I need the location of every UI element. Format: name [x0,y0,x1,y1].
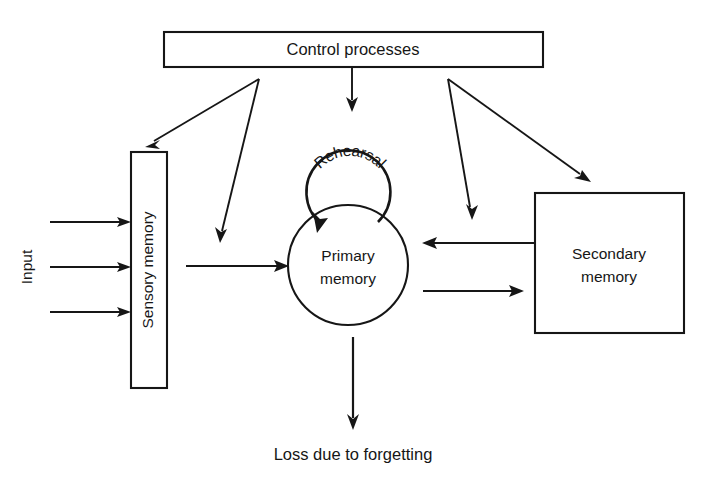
arrowhead [145,140,160,149]
loss-label: Loss due to forgetting [274,445,433,463]
input-arrow-1 [50,217,131,227]
primary-memory-circle [288,205,408,325]
edge-control-to-primary-secondary-link [448,79,478,220]
edge-secondary-to-primary [422,237,534,249]
rehearsal-label: Rehearsal [311,142,390,172]
diagram-canvas: Control processes Sensory memory Input [0,0,706,485]
input-arrow-2 [50,262,131,272]
edge-control-to-secondary [448,79,591,182]
secondary-memory-box [535,193,684,333]
edge-primary-to-loss [347,337,359,430]
secondary-memory-label-line2: memory [581,268,637,285]
rehearsal-loop: Rehearsal [306,142,390,233]
edge-primary-to-secondary [423,285,524,297]
arrowhead [215,227,227,243]
sensory-memory-label: Sensory memory [139,211,156,328]
node-sensory-memory: Sensory memory [131,152,167,388]
edge-sensory-to-primary [186,260,289,272]
primary-memory-label-line2: memory [320,270,376,287]
edge-control-to-sensory [145,79,259,149]
edge-control-to-sensory-output [215,79,259,243]
edge-control-to-rehearsal [346,68,358,112]
input-arrow-3 [50,307,131,317]
node-control-processes: Control processes [164,32,543,67]
arrowhead [466,204,478,220]
primary-memory-label-line1: Primary [321,247,375,264]
node-primary-memory: Primary memory [288,205,408,325]
node-secondary-memory: Secondary memory [535,193,684,333]
secondary-memory-label-line1: Secondary [572,245,646,262]
control-processes-label: Control processes [287,40,420,58]
memory-model-diagram: Control processes Sensory memory Input [0,0,706,485]
input-label: Input [18,249,35,284]
